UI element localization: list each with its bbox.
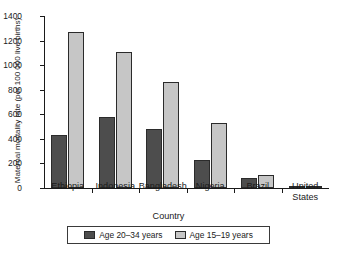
legend-entry-age-15-19: Age 15–19 years: [175, 230, 253, 240]
legend-entry-age-20-34: Age 20–34 years: [84, 230, 162, 240]
y-tick-label: 0: [17, 184, 22, 192]
y-tick-mark: [40, 41, 45, 42]
y-tick-mark: [40, 163, 45, 164]
legend-swatch-icon-age-20-34: [84, 231, 95, 239]
y-tick-mark: [40, 139, 45, 140]
y-tick-label: 1400: [3, 12, 22, 20]
bar-nigeria-series-1: [211, 123, 227, 188]
bar-indonesia-series-0: [99, 117, 115, 188]
y-tick-mark: [40, 90, 45, 91]
bar-bangladesh-series-0: [146, 129, 162, 188]
legend-label-age-20-34: Age 20–34 years: [99, 230, 162, 240]
y-tick-mark: [40, 65, 45, 66]
y-tick-label: 400: [8, 135, 22, 143]
y-tick-mark: [40, 114, 45, 115]
plot-area: 0200400600800100012001400: [44, 14, 329, 189]
legend-label-age-15-19: Age 15–19 years: [190, 230, 253, 240]
chart-figure: Maternal mortality rate (per 100 000 liv…: [0, 0, 337, 258]
bar-indonesia-series-1: [116, 52, 132, 188]
y-tick-label: 1200: [3, 37, 22, 45]
x-axis-title: Country: [0, 211, 337, 221]
y-tick-label: 800: [8, 86, 22, 94]
bar-bangladesh-series-1: [163, 82, 179, 188]
y-tick-label: 200: [8, 159, 22, 167]
bar-ethiopia-series-1: [68, 32, 84, 188]
y-tick-label: 600: [8, 110, 22, 118]
x-category-label: United States: [276, 181, 336, 202]
legend-swatch-icon-age-15-19: [175, 231, 186, 239]
y-tick-label: 1000: [3, 61, 22, 69]
y-tick-mark: [40, 16, 45, 17]
chart-legend: Age 20–34 years Age 15–19 years: [67, 226, 270, 244]
